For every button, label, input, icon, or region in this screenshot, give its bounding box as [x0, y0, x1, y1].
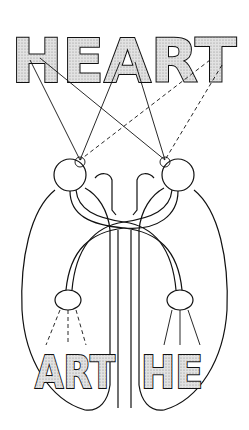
visual-pathway-diagram: HEART	[0, 0, 249, 430]
optic-pathways	[46, 190, 200, 345]
left-lateral-geniculate	[55, 290, 81, 310]
cortex-words: ART HE	[35, 347, 203, 398]
top-word-heart: HEART	[12, 26, 237, 96]
bottom-right-label: HE	[141, 347, 203, 398]
top-label: HEART	[12, 26, 237, 96]
left-eye	[54, 157, 86, 191]
right-lateral-geniculate	[167, 290, 193, 310]
right-eye	[160, 157, 194, 191]
bottom-left-label: ART	[35, 347, 115, 398]
